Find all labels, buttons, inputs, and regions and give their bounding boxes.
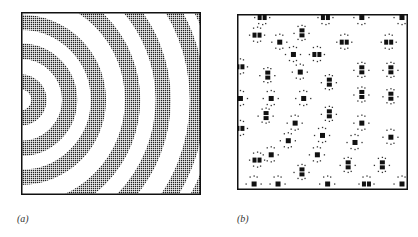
concentric-bands-plot [21,12,201,195]
panel-b-label: (b) [237,213,249,224]
panel-a-label: (a) [17,213,29,224]
panel-b [237,14,408,190]
cluster-pattern-plot [237,14,408,190]
dotted-band [21,82,39,118]
panel-a [21,12,201,195]
